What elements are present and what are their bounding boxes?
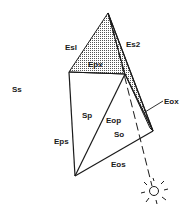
label-epx: Epx [88, 60, 103, 69]
label-eox: Eox [164, 97, 179, 106]
label-so: So [114, 130, 124, 139]
label-es2: Es2 [126, 40, 141, 49]
label-sp: Sp [82, 111, 92, 120]
eox-leader [145, 101, 163, 112]
label-eos: Eos [111, 160, 126, 169]
sun-icon [141, 178, 168, 204]
edge-right [125, 74, 153, 131]
label-es1: Esl [65, 43, 77, 52]
edge-eps [69, 72, 75, 176]
label-eop: Eop [106, 116, 121, 125]
label-ss: Ss [12, 85, 22, 94]
label-eps: Eps [54, 137, 69, 146]
diagram-canvas: Esl Es2 Epx Ss Sp Eop So Eox Eps Eos [0, 0, 189, 214]
